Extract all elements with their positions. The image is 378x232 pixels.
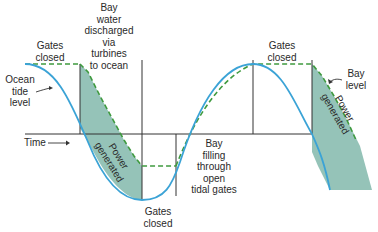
gates-closed-label-bottom: Gates closed xyxy=(140,206,176,229)
bay-filling-label: Bay filling through open tidal gates xyxy=(186,138,242,196)
tidal-power-diagram: Gates closed Bay water discharged via tu… xyxy=(0,0,378,232)
gates-closed-label-left: Gates closed xyxy=(32,40,68,63)
bay-level-label: Bay level xyxy=(343,68,369,91)
diagram-graphics xyxy=(0,0,378,232)
time-label: Time xyxy=(24,137,48,149)
gates-closed-label-right: Gates closed xyxy=(262,40,302,63)
power-generated-region-left xyxy=(80,64,142,200)
bay-water-discharged-label: Bay water discharged via turbines to oce… xyxy=(80,2,138,71)
ocean-tide-curve xyxy=(25,64,330,200)
ocean-tide-level-label: Ocean tide level xyxy=(3,74,37,109)
ocean-tide-pointer-icon xyxy=(36,88,50,92)
